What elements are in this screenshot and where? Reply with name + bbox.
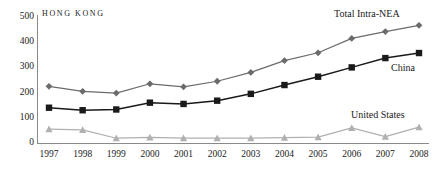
y-axis-tick-100: 100 <box>2 113 34 123</box>
data-point-marker <box>248 91 254 97</box>
series-china <box>46 50 422 114</box>
y-axis-tick-400: 400 <box>2 37 34 47</box>
y-axis-tick-500: 500 <box>2 12 34 22</box>
x-axis-tick-2004: 2004 <box>267 150 301 160</box>
data-point-marker <box>79 107 85 113</box>
series-label-united-states: United States <box>351 110 405 120</box>
data-point-marker <box>46 83 53 90</box>
y-axis-tick-labels: 0100200300400500 <box>0 0 34 173</box>
data-point-marker <box>113 90 120 97</box>
x-axis-tick-2000: 2000 <box>133 150 167 160</box>
x-axis-tick-2002: 2002 <box>200 150 234 160</box>
x-axis-tick-1999: 1999 <box>99 150 133 160</box>
data-point-marker <box>247 69 254 76</box>
x-axis-tick-2003: 2003 <box>234 150 268 160</box>
data-point-marker <box>147 80 154 87</box>
data-point-marker <box>382 28 389 35</box>
series-label-total-intra-nea: Total Intra-NEA <box>334 9 400 19</box>
x-axis-tick-1998: 1998 <box>66 150 100 160</box>
data-point-marker <box>180 101 186 107</box>
data-point-marker <box>79 88 86 95</box>
series-united-states <box>45 124 422 142</box>
x-axis-tick-2008: 2008 <box>402 150 433 160</box>
series-total-intra-nea <box>46 22 423 97</box>
data-point-marker <box>315 49 322 56</box>
chart-plot-area <box>37 17 428 143</box>
data-point-marker <box>315 74 321 80</box>
data-point-marker <box>113 106 119 112</box>
x-axis-tick-2001: 2001 <box>167 150 201 160</box>
data-point-marker <box>348 35 355 42</box>
data-point-marker <box>281 57 288 64</box>
data-point-marker <box>214 78 221 85</box>
x-axis-tick-2006: 2006 <box>335 150 369 160</box>
x-axis-tick-2005: 2005 <box>301 150 335 160</box>
series-line <box>49 25 419 93</box>
x-axis-line <box>37 143 429 144</box>
data-point-marker <box>416 50 422 56</box>
data-point-marker <box>416 22 423 29</box>
chart-container: HONG KONG 0100200300400500 1997199819992… <box>0 0 433 173</box>
data-point-marker <box>415 124 422 131</box>
series-line <box>49 53 419 110</box>
data-point-marker <box>348 124 355 131</box>
series-line <box>49 127 419 138</box>
series-label-china: China <box>391 63 415 73</box>
x-axis-tick-labels: 1997199819992000200120022003200420052006… <box>37 150 429 166</box>
y-axis-tick-300: 300 <box>2 62 34 72</box>
data-point-marker <box>46 105 52 111</box>
data-point-marker <box>180 83 187 90</box>
y-axis-tick-0: 0 <box>2 138 34 148</box>
x-axis-tick-2007: 2007 <box>368 150 402 160</box>
data-point-marker <box>281 82 287 88</box>
data-point-marker <box>349 64 355 70</box>
data-point-marker <box>147 99 153 105</box>
data-point-marker <box>214 97 220 103</box>
data-point-marker <box>382 55 388 61</box>
x-axis-tick-1997: 1997 <box>32 150 66 160</box>
y-axis-tick-200: 200 <box>2 88 34 98</box>
